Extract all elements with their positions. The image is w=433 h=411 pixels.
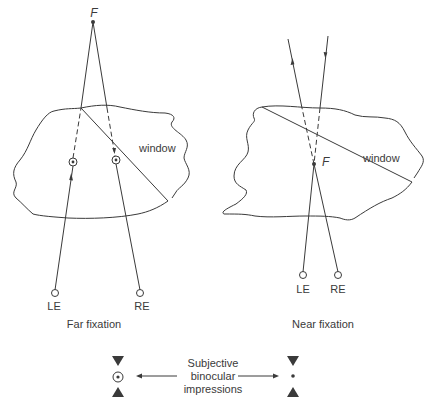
near-window-label: window <box>363 153 400 164</box>
legend-line-3: impressions <box>184 383 243 396</box>
right-center-dot-icon <box>291 374 295 378</box>
right-up-triangle-icon <box>287 387 299 397</box>
near-left-ray-dashed <box>302 108 314 164</box>
near-fixation-caption: Near fixation <box>292 319 354 330</box>
far-left-ray-solid <box>55 166 73 290</box>
binocular-fixation-diagram <box>0 0 433 411</box>
far-left-eye-label: LE <box>47 301 60 312</box>
near-left-eye-icon <box>300 272 307 279</box>
near-left-arrow-icon <box>291 58 295 65</box>
far-right-ray-upper <box>93 22 107 108</box>
far-window-outline <box>14 105 190 218</box>
legend-line-2: binocular <box>184 370 243 383</box>
right-down-triangle-icon <box>287 356 299 366</box>
left-down-triangle-icon <box>112 356 124 366</box>
far-right-image-dot-icon <box>115 159 118 162</box>
far-right-ray-solid <box>116 164 140 290</box>
far-right-eye-icon <box>137 290 144 297</box>
near-fixation-point <box>312 162 316 166</box>
near-fixation-label: F <box>322 156 329 168</box>
legend-line-1: Subjective <box>184 357 243 370</box>
far-left-ray-dashed <box>73 108 81 158</box>
far-left-image-dot-icon <box>72 161 75 164</box>
far-right-arrow-icon <box>112 148 116 154</box>
far-right-eye-label: RE <box>134 301 149 312</box>
near-right-eye-label: RE <box>330 284 345 295</box>
subjective-impressions-text: Subjective binocular impressions <box>184 357 243 396</box>
left-arrowhead-icon <box>136 374 142 379</box>
left-up-triangle-icon <box>112 387 124 397</box>
near-left-ray-upper <box>288 39 302 108</box>
left-center-dot-icon <box>116 375 119 378</box>
far-fixation-caption: Far fixation <box>67 319 121 330</box>
far-left-arrow-icon <box>69 173 73 181</box>
far-left-ray-upper <box>81 22 93 108</box>
near-left-ray-lower <box>303 164 314 272</box>
near-left-eye-label: LE <box>296 284 309 295</box>
right-arrowhead-icon <box>273 374 279 379</box>
far-fixation-label: F <box>90 7 97 19</box>
near-right-ray-upper <box>320 36 328 108</box>
near-right-eye-icon <box>335 272 342 279</box>
near-right-arrow-icon <box>324 52 328 58</box>
near-right-ray-lower <box>314 164 338 272</box>
far-fixation-point <box>91 20 95 24</box>
far-left-eye-icon <box>52 290 59 297</box>
far-window-label: window <box>139 143 176 154</box>
far-fixation-panel <box>14 20 190 297</box>
